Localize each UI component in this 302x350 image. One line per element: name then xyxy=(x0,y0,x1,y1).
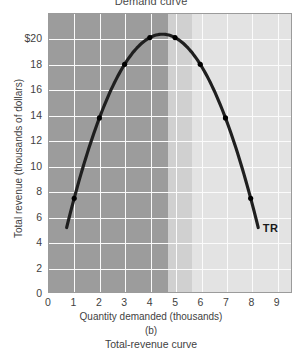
x-tick-label: 0 xyxy=(38,296,58,308)
y-tick-label: 0 xyxy=(0,287,42,299)
x-tick-label: 7 xyxy=(216,296,236,308)
bottom-caption: Total-revenue curve xyxy=(0,338,302,350)
x-tick-label: 1 xyxy=(63,296,83,308)
x-tick-label: 3 xyxy=(114,296,134,308)
x-tick-label: 8 xyxy=(241,296,261,308)
y-tick-label: $20 xyxy=(0,32,42,44)
x-tick-label: 2 xyxy=(89,296,109,308)
y-axis-title: Total revenue (thousands of dollars) xyxy=(13,49,24,269)
series-label-tr: TR xyxy=(263,222,278,234)
x-tick-label: 4 xyxy=(140,296,160,308)
x-tick-label: 9 xyxy=(267,296,287,308)
x-tick-label: 5 xyxy=(165,296,185,308)
x-axis-title: Quantity demanded (thousands) xyxy=(0,311,302,322)
total-revenue-figure: Demand curve 024681012141618$20 01234567… xyxy=(0,0,302,350)
x-tick-label: 6 xyxy=(191,296,211,308)
panel-letter: (b) xyxy=(0,325,302,336)
